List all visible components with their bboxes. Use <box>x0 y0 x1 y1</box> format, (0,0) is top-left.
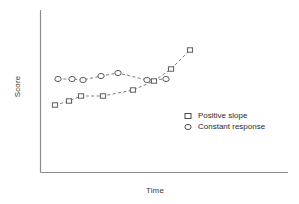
chart-legend: Positive slope Constant response <box>184 111 265 131</box>
x-axis-label: Time <box>120 186 190 195</box>
y-axis-label: Score <box>13 64 22 110</box>
series-markers <box>52 48 192 107</box>
circle-marker-icon <box>184 123 192 131</box>
chart-figure: Score Time Positive slope Constant respo… <box>0 0 299 204</box>
data-point-square <box>52 103 57 107</box>
legend-label-constant-response: Constant response <box>198 122 265 131</box>
axis-lines <box>41 10 289 173</box>
legend-label-positive-slope: Positive slope <box>198 111 247 120</box>
data-point-circle <box>69 76 75 81</box>
data-point-square <box>151 79 156 83</box>
plot-area <box>0 0 299 204</box>
data-point-square <box>168 67 173 71</box>
data-point-circle <box>55 76 61 81</box>
data-point-circle <box>98 73 104 78</box>
data-point-square <box>100 94 105 98</box>
data-point-circle <box>163 76 169 81</box>
legend-item-positive-slope: Positive slope <box>184 111 265 120</box>
data-point-square <box>187 48 192 52</box>
data-point-circle <box>144 77 150 82</box>
data-point-square <box>130 88 135 92</box>
data-point-square <box>66 99 71 103</box>
data-point-circle <box>115 70 121 75</box>
data-point-square <box>78 94 83 98</box>
legend-item-constant-response: Constant response <box>184 122 265 131</box>
square-marker-icon <box>184 112 192 120</box>
data-point-circle <box>80 77 86 82</box>
